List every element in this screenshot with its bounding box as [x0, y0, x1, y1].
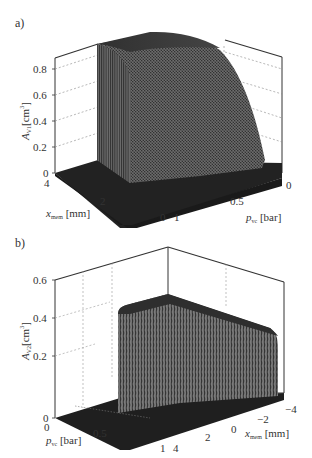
x-axis-label-a: xmem [mm]: [46, 208, 90, 223]
z-axis-label-b: AV2[cm3]: [17, 322, 35, 360]
panel-b-tag: b): [15, 238, 25, 249]
z-tick-a-4: 0.8: [33, 64, 47, 75]
x-tick-a-1: 2: [100, 196, 106, 207]
chart-panel-b: b) 0 0.2 0.4 0.6 AV2[cm3] 0 0.5 1 pvc [b…: [0, 228, 312, 458]
x-tick-b-2: 0: [231, 424, 237, 435]
z-tick-b-2: 0.4: [33, 313, 47, 324]
z-tick-a-3: 0.6: [33, 90, 47, 101]
x-tick-b-0: 4: [173, 443, 179, 454]
y-axis-label-a: pvc [bar]: [246, 212, 281, 227]
y-tick-a-1: 0.5: [230, 196, 244, 207]
z-tick-b-1: 0.2: [33, 351, 47, 362]
chart-panel-a: a) 0 0.2 0.4 0.6 0.8 AV1[cm3] 4 2 0 xmem…: [0, 0, 312, 228]
y-tick-a-2: 0: [286, 180, 292, 191]
y-tick-b-0: 0: [44, 422, 50, 433]
x-tick-a-0: 4: [44, 178, 50, 189]
y-axis-label-b: pvc [bar]: [46, 435, 81, 450]
z-tick-a-2: 0.4: [33, 116, 47, 127]
x-tick-b-4: −4: [285, 404, 297, 415]
z-tick-a-1: 0.2: [33, 142, 47, 153]
z-axis-label-a: AV1[cm3]: [17, 102, 35, 140]
y-tick-b-2: 1: [160, 443, 166, 454]
x-tick-b-3: −2: [257, 414, 269, 425]
y-tick-a-0: 1: [174, 212, 180, 223]
z-tick-b-3: 0.6: [33, 275, 47, 286]
y-tick-b-1: 0.5: [93, 428, 107, 439]
panel-a-tag: a): [15, 18, 24, 29]
x-tick-b-1: 2: [205, 432, 211, 443]
x-axis-label-b: xmem [mm]: [245, 428, 289, 443]
x-tick-a-2: 0: [160, 212, 166, 223]
surface-plot-a: [0, 0, 312, 228]
